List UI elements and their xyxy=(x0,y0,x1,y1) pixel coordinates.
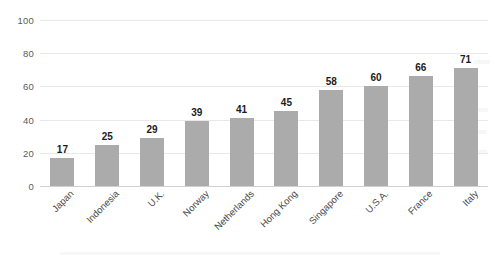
category-label: U.S.A. xyxy=(363,188,390,215)
y-axis-tick-label: 20 xyxy=(23,147,34,158)
category-label: Norway xyxy=(180,188,211,219)
bar[interactable] xyxy=(319,90,343,186)
category-axis-labels: JapanIndonesiaU.K.NorwayNetherlandsHong … xyxy=(40,188,488,258)
bar-value-label: 45 xyxy=(281,97,292,108)
bars-layer: 17252939414558606671 xyxy=(40,20,488,186)
category-label: France xyxy=(405,188,434,217)
bar-value-label: 25 xyxy=(102,131,113,142)
y-axis-tick-label: 40 xyxy=(23,114,34,125)
plot-area: 020406080100 17252939414558606671 xyxy=(40,20,488,186)
bar-group[interactable]: 41 xyxy=(230,20,254,186)
category-label: Netherlands xyxy=(212,188,256,232)
bar-value-label: 29 xyxy=(146,124,157,135)
bar-group[interactable]: 58 xyxy=(319,20,343,186)
bar-group[interactable]: 39 xyxy=(185,20,209,186)
bar[interactable] xyxy=(274,111,298,186)
category-label: U.K. xyxy=(145,188,166,209)
bar[interactable] xyxy=(50,158,74,186)
bar[interactable] xyxy=(454,68,478,186)
y-axis-tick-label: 80 xyxy=(23,48,34,59)
bar-chart: 020406080100 17252939414558606671 JapanI… xyxy=(0,0,495,265)
category-label: Japan xyxy=(50,188,76,214)
bar-value-label: 60 xyxy=(370,72,381,83)
bar-value-label: 41 xyxy=(236,104,247,115)
bar-group[interactable]: 45 xyxy=(274,20,298,186)
y-axis-tick-label: 100 xyxy=(18,15,34,26)
bar-value-label: 17 xyxy=(57,144,68,155)
bar-group[interactable]: 17 xyxy=(50,20,74,186)
category-label: Hong Kong xyxy=(258,188,299,229)
bar[interactable] xyxy=(364,86,388,186)
category-label: Italy xyxy=(460,188,480,208)
bar-group[interactable]: 71 xyxy=(454,20,478,186)
bar[interactable] xyxy=(185,121,209,186)
bar-group[interactable]: 29 xyxy=(140,20,164,186)
bar[interactable] xyxy=(140,138,164,186)
bar[interactable] xyxy=(95,145,119,187)
bar-group[interactable]: 60 xyxy=(364,20,388,186)
y-axis-tick-label: 0 xyxy=(29,181,34,192)
bar-value-label: 71 xyxy=(460,54,471,65)
bar-value-label: 39 xyxy=(191,107,202,118)
bar-value-label: 66 xyxy=(415,62,426,73)
bar[interactable] xyxy=(230,118,254,186)
y-axis-tick-label: 60 xyxy=(23,81,34,92)
category-label: Indonesia xyxy=(84,188,121,225)
bar-group[interactable]: 66 xyxy=(409,20,433,186)
gridline-0 xyxy=(40,186,488,187)
bar-group[interactable]: 25 xyxy=(95,20,119,186)
bar[interactable] xyxy=(409,76,433,186)
category-label: Singapore xyxy=(307,188,345,226)
bar-value-label: 58 xyxy=(326,76,337,87)
